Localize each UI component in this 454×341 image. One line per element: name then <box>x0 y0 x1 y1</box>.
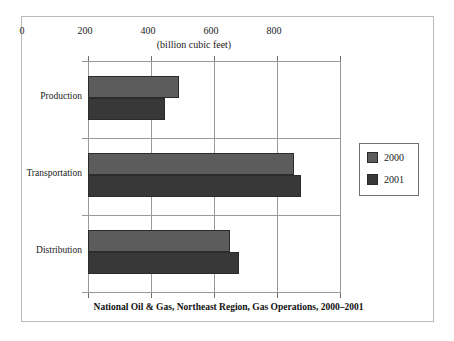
grid-h-top <box>88 61 340 62</box>
category-label-transportation: Transportation <box>26 168 82 178</box>
x-tick-label-600: 600 <box>204 25 219 36</box>
grid-h-bottom <box>88 292 340 293</box>
bar-distribution-2000[interactable] <box>88 230 230 252</box>
legend-label-2001: 2001 <box>384 174 404 185</box>
axis-tick-bottom-600 <box>277 293 278 298</box>
grid-h-1 <box>88 138 340 139</box>
category-label-production: Production <box>40 91 82 101</box>
x-tick-label-800: 800 <box>267 25 282 36</box>
legend-swatch-2001-icon <box>367 174 378 185</box>
axis-tick-bottom-0 <box>88 293 89 298</box>
x-axis-labels: 0 200 400 600 800 (billion cubic feet) <box>22 17 435 61</box>
chart-caption: National Oil & Gas, Northeast Region, Ga… <box>22 302 435 312</box>
legend-item-2000[interactable]: 2000 <box>367 152 404 163</box>
bar-production-2000[interactable] <box>88 76 179 98</box>
legend-swatch-2000-icon <box>367 152 378 163</box>
legend-item-2001[interactable]: 2001 <box>367 174 404 185</box>
plot-area: Production Transportation Distribution <box>88 61 340 293</box>
chart-figure: 0 200 400 600 800 (billion cubic feet) <box>21 16 434 322</box>
y-tick-1 <box>82 138 88 139</box>
gridline-800 <box>340 61 341 293</box>
x-tick-label-200: 200 <box>78 25 93 36</box>
axis-tick-bottom-800 <box>340 293 341 298</box>
axis-tick-800 <box>340 56 341 61</box>
bar-transportation-2001[interactable] <box>88 175 301 197</box>
x-tick-label-400: 400 <box>141 25 156 36</box>
bar-distribution-2001[interactable] <box>88 252 239 274</box>
grid-h-2 <box>88 215 340 216</box>
x-axis-unit-label: (billion cubic feet) <box>157 39 231 50</box>
y-tick-bottom <box>82 292 88 293</box>
legend-label-2000: 2000 <box>384 152 404 163</box>
axis-tick-bottom-200 <box>151 293 152 298</box>
category-label-distribution: Distribution <box>36 245 82 255</box>
chart-legend: 2000 2001 <box>359 143 419 196</box>
bar-transportation-2000[interactable] <box>88 153 294 175</box>
y-tick-2 <box>82 215 88 216</box>
x-tick-label-0: 0 <box>20 25 25 36</box>
y-tick-top <box>82 61 88 62</box>
axis-tick-bottom-400 <box>214 293 215 298</box>
bar-production-2001[interactable] <box>88 98 165 120</box>
